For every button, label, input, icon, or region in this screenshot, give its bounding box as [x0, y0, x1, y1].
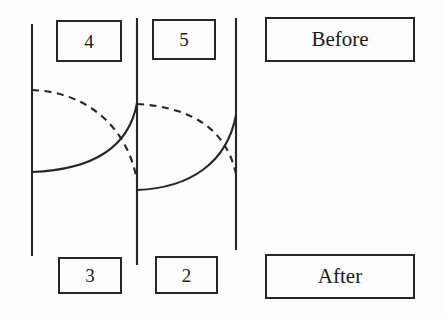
cell-two-solid-arc [137, 115, 236, 190]
cell-one-dashed-arc [32, 90, 137, 181]
label-box-top-right-text: 5 [179, 30, 189, 49]
cell-one-solid-arc [32, 103, 137, 172]
label-box-after: After [265, 254, 415, 299]
diagram-canvas: 4 5 Before 3 2 After [0, 0, 445, 319]
label-box-top-left-text: 4 [84, 32, 94, 51]
label-box-after-text: After [318, 266, 362, 287]
cell-two-dashed-arc [137, 104, 236, 174]
label-box-top-left: 4 [56, 20, 122, 62]
label-box-bottom-right-text: 2 [182, 266, 192, 285]
label-box-bottom-right: 2 [155, 256, 218, 294]
label-box-bottom-left: 3 [58, 257, 122, 294]
label-box-before: Before [265, 17, 415, 62]
label-box-bottom-left-text: 3 [85, 266, 95, 285]
label-box-top-right: 5 [152, 19, 216, 60]
label-box-before-text: Before [311, 29, 368, 50]
